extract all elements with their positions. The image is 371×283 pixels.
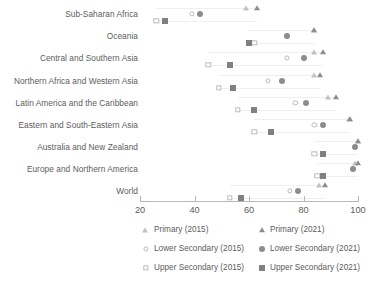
legend-item[interactable]: Lower Secondary (2015) xyxy=(140,243,244,254)
row-connector-line xyxy=(249,30,314,31)
square-open-marker xyxy=(154,18,159,23)
x-axis-tick-label: 20 xyxy=(135,205,145,215)
square-filled-marker xyxy=(227,62,233,68)
triangle-open-marker xyxy=(243,5,249,10)
circle-open-marker xyxy=(285,55,290,60)
legend-item[interactable]: Upper Secondary (2021) xyxy=(256,262,360,273)
triangle-filled-marker xyxy=(347,116,353,121)
circle-filled-icon xyxy=(256,243,267,254)
triangle-open-inner xyxy=(312,74,316,77)
triangle-open-marker xyxy=(325,94,331,99)
legend-item[interactable]: Primary (2021) xyxy=(256,224,324,235)
circle-filled-marker xyxy=(303,100,309,106)
row-connector-line xyxy=(156,21,257,22)
legend-label: Primary (2015) xyxy=(154,225,208,234)
x-axis-tick xyxy=(195,196,196,202)
circle-filled-marker xyxy=(320,122,326,128)
triangle-filled-marker xyxy=(355,138,361,143)
legend-item[interactable]: Lower Secondary (2021) xyxy=(256,243,360,254)
legend-label: Upper Secondary (2015) xyxy=(154,263,244,272)
category-label: Central and Southern Asia xyxy=(40,53,138,63)
circle-filled-marker xyxy=(350,166,356,172)
triangle-filled-marker xyxy=(355,160,361,165)
category-label: Australia and New Zealand xyxy=(37,142,138,152)
row-connector-line xyxy=(238,97,336,98)
circle-filled-marker xyxy=(301,55,307,61)
legend-item[interactable]: Upper Secondary (2015) xyxy=(140,262,244,273)
circle-open-icon xyxy=(140,243,151,254)
row-connector-line xyxy=(254,119,349,120)
row-connector-line xyxy=(230,198,325,199)
row-connector-line xyxy=(249,43,314,44)
triangle-open-icon xyxy=(140,224,151,235)
square-open-glyph xyxy=(143,265,148,270)
completion-rate-dot-chart: Sub-Saharan AfricaOceaniaCentral and Sou… xyxy=(0,0,371,283)
circle-open-marker xyxy=(287,188,292,193)
category-label: Eastern and South-Eastern Asia xyxy=(18,120,138,130)
square-filled-glyph xyxy=(259,265,265,271)
square-filled-marker xyxy=(162,18,168,24)
x-axis-tick-label: 40 xyxy=(189,205,199,215)
x-axis-tick-label: 100 xyxy=(350,205,365,215)
square-open-marker xyxy=(252,129,257,134)
triangle-open-inner xyxy=(143,229,147,232)
square-open-marker xyxy=(252,40,257,45)
category-label: Northern Africa and Western Asia xyxy=(14,76,138,86)
triangle-open-inner xyxy=(244,7,248,10)
row-connector-line xyxy=(208,52,322,53)
x-axis-tick xyxy=(249,196,250,202)
triangle-filled-marker xyxy=(254,5,260,10)
square-open-marker xyxy=(205,62,210,67)
circle-open-marker xyxy=(312,122,317,127)
category-label: Oceania xyxy=(107,31,138,41)
circle-filled-marker xyxy=(284,33,290,39)
x-axis-tick-label: 60 xyxy=(244,205,254,215)
circle-filled-marker xyxy=(197,11,203,17)
legend-label: Lower Secondary (2021) xyxy=(270,244,360,253)
triangle-filled-marker xyxy=(320,49,326,54)
square-filled-marker xyxy=(320,151,326,157)
legend-label: Lower Secondary (2015) xyxy=(154,244,244,253)
triangle-filled-marker xyxy=(333,94,339,99)
square-filled-marker xyxy=(238,195,244,201)
square-filled-marker xyxy=(251,107,257,113)
triangle-filled-marker xyxy=(322,182,328,187)
triangle-filled-glyph xyxy=(259,227,265,232)
triangle-filled-icon xyxy=(256,224,267,235)
triangle-open-inner xyxy=(326,96,330,99)
chart-legend: Primary (2015)Primary (2021)Lower Second… xyxy=(140,224,371,280)
circle-filled-glyph xyxy=(259,246,265,252)
x-axis-tick xyxy=(304,196,305,202)
circle-open-glyph xyxy=(143,246,148,251)
square-filled-marker xyxy=(268,129,274,135)
square-filled-icon xyxy=(256,262,267,273)
circle-filled-marker xyxy=(279,78,285,84)
square-filled-marker xyxy=(320,173,326,179)
square-filled-marker xyxy=(246,40,252,46)
square-open-marker xyxy=(235,107,240,112)
legend-item[interactable]: Primary (2015) xyxy=(140,224,208,235)
circle-filled-marker xyxy=(352,144,358,150)
triangle-open-glyph xyxy=(143,228,149,233)
category-label: Europe and Northern America xyxy=(27,164,138,174)
legend-label: Upper Secondary (2021) xyxy=(270,263,360,272)
plot-area: Sub-Saharan AfricaOceaniaCentral and Sou… xyxy=(0,0,371,218)
square-open-icon xyxy=(140,262,151,273)
row-connector-line xyxy=(230,185,325,186)
row-connector-line xyxy=(208,65,322,66)
triangle-open-inner xyxy=(318,184,322,187)
row-connector-line xyxy=(314,141,358,142)
circle-open-marker xyxy=(265,78,270,83)
row-connector-line xyxy=(219,75,320,76)
legend-label: Primary (2021) xyxy=(270,225,324,234)
circle-open-marker xyxy=(189,11,194,16)
triangle-filled-marker xyxy=(317,72,323,77)
triangle-filled-marker xyxy=(311,27,317,32)
square-open-marker xyxy=(227,195,232,200)
triangle-open-marker xyxy=(311,49,317,54)
x-axis-tick xyxy=(358,196,359,202)
triangle-open-inner xyxy=(312,51,316,54)
x-axis-tick xyxy=(140,196,141,202)
category-label: World xyxy=(116,186,138,196)
square-open-marker xyxy=(216,85,221,90)
